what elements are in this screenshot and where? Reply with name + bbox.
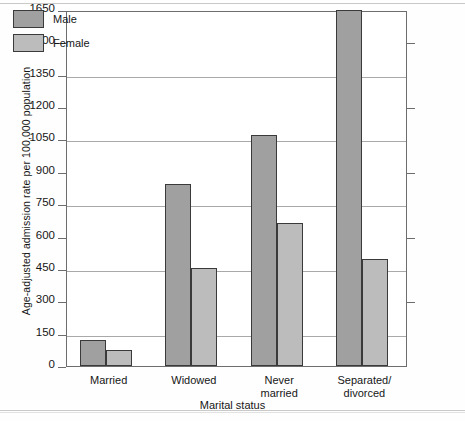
plot-area bbox=[66, 11, 407, 367]
legend-swatch-male-icon bbox=[13, 10, 44, 28]
y-axis-tick-mark bbox=[58, 367, 66, 368]
y-axis-tick-mark bbox=[58, 238, 66, 239]
x-axis-tick-label: Married bbox=[66, 374, 151, 387]
y-axis-tick-mark bbox=[58, 205, 66, 206]
x-axis-tick-label: Never married bbox=[237, 374, 322, 399]
legend: Male Female bbox=[13, 10, 90, 58]
legend-item-male: Male bbox=[13, 10, 90, 28]
bar-male-0 bbox=[80, 340, 106, 366]
x-axis-tick-label: Separated/ divorced bbox=[322, 374, 407, 399]
y-axis-tick-mark bbox=[58, 302, 66, 303]
y-axis-tick-mark-right bbox=[407, 302, 415, 303]
y-axis: 015030045060075090010501200135015001650 bbox=[0, 0, 66, 421]
y-axis-tick-mark bbox=[58, 76, 66, 77]
bar-male-1 bbox=[165, 184, 191, 366]
y-axis-tick-label: 750 bbox=[36, 197, 55, 208]
y-axis-tick-label: 1200 bbox=[29, 100, 55, 111]
legend-item-female: Female bbox=[13, 34, 90, 52]
y-axis-title: Age-adjusted admission rate per 100,000 … bbox=[20, 41, 32, 341]
y-axis-tick-label: 1350 bbox=[29, 68, 55, 79]
bar-female-3 bbox=[362, 259, 388, 366]
page-bottom-rule bbox=[0, 410, 465, 411]
legend-swatch-female-icon bbox=[13, 34, 44, 52]
bar-female-2 bbox=[277, 223, 303, 366]
bar-female-1 bbox=[191, 268, 217, 366]
chart-page: 015030045060075090010501200135015001650 … bbox=[0, 0, 465, 421]
y-axis-tick-label: 300 bbox=[36, 294, 55, 305]
bar-male-3 bbox=[336, 10, 362, 366]
y-axis-tick-mark bbox=[58, 335, 66, 336]
y-axis-tick-mark-right bbox=[407, 43, 415, 44]
y-axis-tick-label: 1050 bbox=[29, 132, 55, 143]
bar-male-2 bbox=[251, 135, 277, 366]
y-axis-tick-mark bbox=[58, 173, 66, 174]
y-axis-tick-mark bbox=[58, 108, 66, 109]
x-axis-tick-label: Widowed bbox=[151, 374, 236, 387]
bar-female-0 bbox=[106, 350, 132, 366]
y-axis-tick-mark bbox=[58, 270, 66, 271]
page-bottom-rule-secondary bbox=[0, 412, 465, 413]
y-axis-tick-label: 450 bbox=[36, 262, 55, 273]
y-axis-tick-label: 150 bbox=[36, 327, 55, 338]
y-axis-tick-mark bbox=[58, 140, 66, 141]
legend-label-male: Male bbox=[53, 13, 77, 25]
page-top-rule bbox=[0, 3, 465, 4]
y-axis-tick-mark-right bbox=[407, 108, 415, 109]
y-axis-tick-label: 0 bbox=[49, 359, 55, 370]
y-axis-tick-mark-right bbox=[407, 238, 415, 239]
y-axis-tick-mark-right bbox=[407, 173, 415, 174]
legend-label-female: Female bbox=[53, 37, 90, 49]
y-axis-tick-label: 600 bbox=[36, 230, 55, 241]
y-axis-tick-label: 900 bbox=[36, 165, 55, 176]
